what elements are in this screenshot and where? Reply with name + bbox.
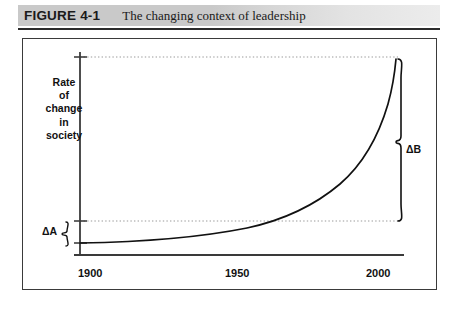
header-divider-rule	[18, 28, 440, 30]
x-axis-tick-label-1900: 1900	[78, 267, 102, 279]
x-axis-tick-label-2000: 2000	[366, 267, 390, 279]
y-axis-label: Rate of change in society	[28, 76, 100, 142]
growth-curve	[80, 59, 396, 243]
delta-a-label: ΔA	[42, 225, 57, 237]
figure-header-text: FIGURE 4-1 The changing context of leade…	[24, 6, 306, 25]
figure-number-label: FIGURE 4-1	[24, 8, 100, 23]
delta-b-brace	[396, 59, 402, 221]
x-axis-tick-label-1950: 1950	[225, 267, 249, 279]
figure-title-label: The changing context of leadership	[122, 8, 305, 24]
delta-b-label: ΔB	[406, 143, 421, 155]
delta-a-brace	[62, 222, 68, 246]
